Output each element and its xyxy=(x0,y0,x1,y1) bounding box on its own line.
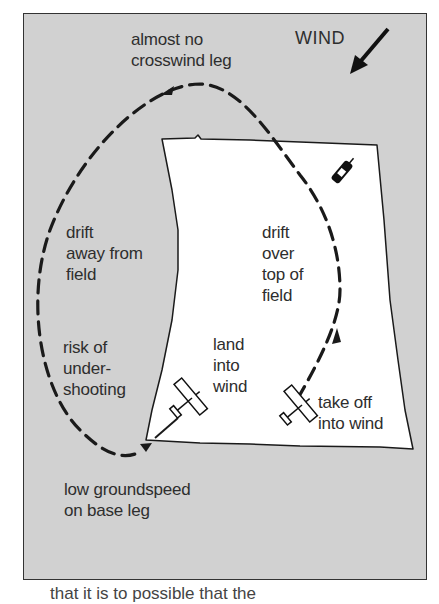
label-drift-away: drift away from field xyxy=(66,222,143,285)
arrowhead-base xyxy=(140,443,152,452)
wind-label: WIND xyxy=(295,28,345,49)
partial-caption: that it is to possible that the xyxy=(50,584,256,604)
wind-arrow-icon xyxy=(350,29,388,74)
label-crosswind-leg: almost no crosswind leg xyxy=(131,29,231,71)
label-base-leg: low groundspeed on base leg xyxy=(64,479,190,521)
arrowhead-crosswind xyxy=(160,86,174,95)
label-land-into-wind: land into wind xyxy=(213,334,247,397)
label-drift-over: drift over top of field xyxy=(262,222,303,306)
label-undershooting: risk of under- shooting xyxy=(63,337,126,400)
label-take-off: take off into wind xyxy=(318,392,383,434)
